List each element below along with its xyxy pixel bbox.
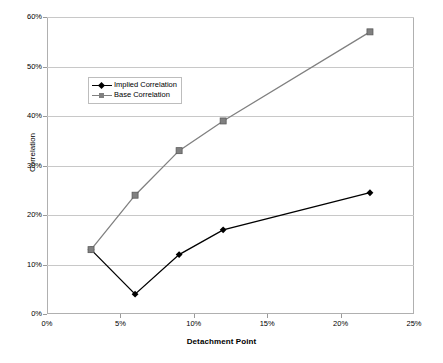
series-layer [0,0,443,363]
y-axis-title: Correlation [28,113,37,193]
legend-swatch-base [92,91,112,100]
diamond-marker [220,226,227,233]
square-marker [88,247,94,253]
chart-legend: Implied Correlation Base Correlation [88,77,182,104]
square-marker-icon [99,93,104,98]
square-marker [176,148,182,154]
legend-label-base: Base Correlation [114,90,170,100]
x-axis-title: Detachment Point [0,337,443,346]
series-line-square [91,32,370,250]
series-line-diamond [91,193,370,294]
legend-item-implied-correlation[interactable]: Implied Correlation [92,80,177,90]
cropped-caption-fragment [6,354,296,360]
diamond-marker [367,189,374,196]
legend-label-implied: Implied Correlation [114,80,177,90]
square-marker [367,29,373,35]
correlation-line-chart: 0%10%20%30%40%50%60% 0%5%10%15%20%25% Im… [0,0,443,363]
square-marker [132,192,138,198]
legend-swatch-implied [92,81,112,90]
square-marker [220,118,226,124]
legend-item-base-correlation[interactable]: Base Correlation [92,90,177,100]
diamond-marker-icon [98,81,105,88]
